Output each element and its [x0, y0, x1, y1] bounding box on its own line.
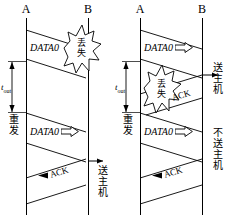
receiver-note-discard-1: 不送主机: [212, 127, 224, 171]
message-label-data0-first: DATA0: [144, 42, 193, 53]
panel-left: A B DATA0: [0, 0, 114, 215]
message-label-data0-first: DATA0: [30, 42, 59, 53]
right-message-lines: [114, 0, 228, 215]
retransmit-label: 重发: [8, 114, 20, 136]
receiver-note-deliver-1: 送主机: [97, 165, 109, 198]
burst-label-lost: 丢失: [76, 38, 87, 58]
diagram-canvas: A B DATA0: [0, 0, 228, 215]
hollow-arrow-icon: [61, 126, 79, 137]
timeout-label: tout: [1, 82, 11, 94]
hollow-arrow-icon: [175, 126, 193, 137]
retransmit-label: 重发: [122, 114, 134, 136]
timeout-label: tout: [115, 82, 125, 94]
receiver-note-deliver-1: 送主机: [212, 62, 224, 95]
hollow-arrow-icon: [175, 42, 193, 53]
message-label-data0-retx: DATA0: [30, 126, 79, 137]
burst-label-lost: 丢失: [156, 79, 167, 99]
message-label-data0-retx: DATA0: [144, 126, 193, 137]
panel-right: A B: [114, 0, 228, 215]
